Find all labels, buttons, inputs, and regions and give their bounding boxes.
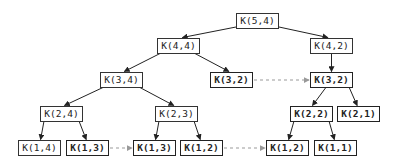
tree-node: K(2,4) bbox=[40, 106, 83, 122]
tree-edge bbox=[313, 88, 326, 106]
tree-node: K(3,2) bbox=[310, 72, 353, 88]
tree-node: K(1,1) bbox=[314, 140, 357, 156]
tree-edge bbox=[139, 87, 174, 106]
tree-node: K(1,4) bbox=[18, 140, 61, 156]
tree-edge bbox=[65, 87, 105, 106]
tree-node: K(3,4) bbox=[100, 72, 143, 88]
tree-node: K(2,1) bbox=[337, 106, 380, 122]
tree-edge bbox=[349, 87, 357, 106]
tree-edge bbox=[289, 121, 294, 140]
tree-node: K(2,3) bbox=[155, 106, 198, 122]
tree-node: K(1,2) bbox=[180, 140, 223, 156]
tree-edge bbox=[41, 121, 44, 140]
tree-node: K(1,2) bbox=[266, 140, 309, 156]
tree-edge bbox=[182, 27, 236, 38]
tree-node: K(5,4) bbox=[236, 13, 279, 29]
tree-edge bbox=[329, 121, 334, 140]
tree-node: K(1,3) bbox=[133, 140, 176, 156]
tree-edge bbox=[79, 121, 86, 140]
recursion-tree-diagram: K(5,4)K(4,4)K(4,2)K(3,4)K(3,2)K(3,2)K(2,… bbox=[0, 0, 397, 166]
tree-node: K(4,4) bbox=[157, 38, 200, 54]
tree-edge bbox=[194, 53, 229, 72]
tree-edge bbox=[279, 27, 328, 38]
tree-node: K(3,2) bbox=[210, 72, 253, 88]
tree-node: K(4,2) bbox=[310, 38, 353, 54]
tree-node: K(1,3) bbox=[66, 140, 109, 156]
tree-edge bbox=[156, 121, 159, 140]
tree-edge bbox=[194, 121, 200, 140]
tree-node: K(2,2) bbox=[290, 106, 333, 122]
tree-edge bbox=[124, 53, 161, 72]
